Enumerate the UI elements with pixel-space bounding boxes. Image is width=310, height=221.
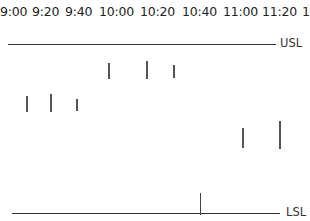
x-label-1100: 11:00: [223, 4, 258, 19]
range-bar: [50, 94, 52, 112]
range-bar: [279, 121, 281, 149]
marker-tick: [200, 193, 201, 215]
x-label-1140: 11:40: [302, 4, 310, 19]
lsl-line: [12, 213, 280, 214]
x-label-0900: 9:00: [0, 4, 27, 19]
x-label-0940: 9:40: [65, 4, 92, 19]
x-label-1020: 10:20: [140, 4, 175, 19]
range-bar: [108, 63, 110, 79]
x-label-1040: 10:40: [182, 4, 217, 19]
usl-label: USL: [280, 36, 302, 50]
usl-line: [8, 44, 276, 45]
x-label-1120: 11:20: [262, 4, 297, 19]
x-label-0920: 9:20: [32, 4, 59, 19]
range-bar: [242, 128, 244, 148]
range-bar: [173, 65, 175, 78]
lsl-label: LSL: [286, 205, 306, 219]
range-bar: [26, 96, 28, 112]
range-bar: [146, 61, 148, 79]
x-axis-labels: 9:00 9:20 9:40 10:00 10:20 10:40 11:00 1…: [0, 4, 310, 20]
range-bar: [76, 99, 78, 111]
x-label-1000: 10:00: [99, 4, 134, 19]
